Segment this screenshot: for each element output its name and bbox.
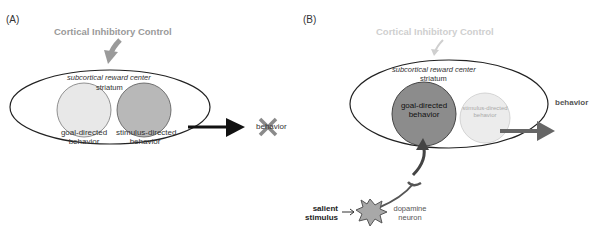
behavior-output-label-a: behavior bbox=[256, 122, 287, 131]
goal-directed-label-b: goal-directed behavior bbox=[394, 101, 454, 119]
stimulus-directed-line1: stimulus-directed bbox=[116, 128, 174, 137]
dopamine-neuron-label: dopamine neuron bbox=[388, 205, 432, 222]
stimulus-directed-line2-b: behavior bbox=[458, 112, 512, 119]
panel-b-label: (B) bbox=[303, 14, 316, 26]
dopamine-neuron-icon bbox=[356, 199, 387, 226]
goal-directed-label-a: goal-directed behavior bbox=[57, 128, 111, 146]
dopamine-line2: neuron bbox=[388, 214, 432, 223]
goal-directed-line1: goal-directed bbox=[57, 128, 111, 137]
goal-directed-line1-b: goal-directed bbox=[394, 101, 454, 110]
cortical-control-label-a: Cortical Inhibitory Control bbox=[54, 27, 172, 38]
salient-stimulus-label: salient stimulus bbox=[300, 204, 338, 222]
panel-a-label: (A) bbox=[6, 14, 19, 26]
salient-line2: stimulus bbox=[300, 213, 338, 222]
stimulus-directed-label-a: stimulus-directed behavior bbox=[116, 128, 174, 146]
region-label-a: subcortical reward center bbox=[67, 74, 151, 83]
structure-label-a: striatum bbox=[96, 84, 123, 93]
structure-label-b: striatum bbox=[420, 75, 447, 84]
salient-line1: salient bbox=[300, 204, 338, 213]
behavior-output-label-b: behavior bbox=[555, 98, 588, 107]
stimulus-directed-line1-b: stimulus-directed bbox=[458, 105, 512, 112]
stimulus-directed-label-b: stimulus-directed behavior bbox=[458, 105, 512, 119]
cortical-control-label-b: Cortical Inhibitory Control bbox=[376, 27, 494, 38]
goal-directed-line2: behavior bbox=[57, 137, 111, 146]
goal-directed-line2-b: behavior bbox=[394, 110, 454, 119]
stimulus-directed-line2: behavior bbox=[116, 137, 174, 146]
